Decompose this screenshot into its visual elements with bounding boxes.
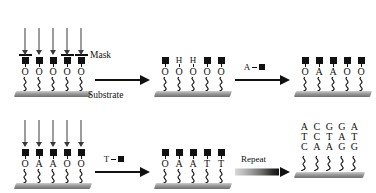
panel-4-protecting-group-3 [50, 149, 57, 156]
panel-6-base-r3c3: A [323, 142, 336, 152]
linker-squiggle-icon [341, 77, 353, 92]
bond-dash-icon [252, 67, 257, 68]
synthesis-cycle-diagram: OOOOOOHOHOOOOAAOOOAAOOOAATTATRepeatMaskS… [0, 0, 376, 193]
panel-1-light-arrow-2 [33, 28, 45, 54]
arrow-head-icon [280, 167, 290, 177]
panel-3-mask-bar-2 [313, 54, 326, 56]
panel-1-protecting-group-1 [22, 57, 29, 64]
panel-5-protecting-group-5 [218, 149, 225, 156]
panel-4-column-4: O [60, 120, 74, 184]
panel-2-column-4: O [200, 28, 214, 92]
panel-6-base-r3c5: G [348, 142, 361, 152]
panel-5-column-2: A [172, 120, 186, 184]
panel-1-column-4: O [60, 28, 74, 92]
panel-4-base-3: A [49, 159, 56, 169]
substrate-label: Substrate [88, 90, 123, 100]
arrow-2-reagent: A [244, 62, 266, 72]
panel-1-light-arrow-3 [47, 28, 59, 54]
arrow-2-reagent-letter: A [244, 62, 251, 72]
arrow-3-label: T [104, 154, 125, 164]
down-arrow-icon [50, 142, 56, 147]
panel-3-base-2: A [315, 67, 322, 77]
arrow-3-reagent: T [104, 154, 125, 164]
panel-2-hydrogen-cap-2: H [176, 57, 183, 64]
panel-2-column-1: O [158, 28, 172, 92]
down-arrow-icon [64, 142, 70, 147]
panel-4-column-3: A [46, 120, 60, 184]
arrow-shaft [95, 171, 141, 173]
panel-6-base-r3c2: A [311, 142, 324, 152]
panel-3-mask-bar-4 [341, 54, 354, 56]
panel-1-light-arrow-4 [61, 28, 73, 54]
panel-6-linker-column-4 [336, 156, 349, 171]
panel-2-light-arrow-1 [159, 28, 171, 54]
panel-2-protecting-group-5 [218, 57, 225, 64]
linker-squiggle-icon [47, 77, 59, 92]
linker-squiggle-icon [348, 156, 360, 171]
panel-3-base-5: O [357, 67, 364, 77]
panel-5-base-4: T [204, 159, 210, 169]
panel-5-protecting-group-1 [162, 149, 169, 156]
arrow-head-icon [140, 167, 150, 177]
panel-5-base-5: T [218, 159, 224, 169]
panel-5-light-arrow-4 [201, 120, 213, 146]
panel-1-column-3: O [46, 28, 60, 92]
panel-3-column-2: A [312, 28, 326, 92]
panel-5-substrate [154, 183, 232, 189]
panel-2-substrate [154, 91, 232, 97]
panel-1-column-1: O [18, 28, 32, 92]
panel-5-light-arrow-5 [215, 120, 227, 146]
panel-5-light-arrow-3 [187, 120, 199, 146]
panel-1-substrate [14, 91, 92, 97]
arrow-3 [95, 166, 150, 178]
panel-4-protecting-group-4 [64, 149, 71, 156]
panel-1-protecting-group-2 [36, 57, 43, 64]
panel-2-light-arrow-3 [187, 28, 199, 54]
panel-4-base-2: A [35, 159, 42, 169]
panel-4-column-1: O [18, 120, 32, 184]
linker-squiggle-icon [47, 169, 59, 184]
panel-1-base-1: O [21, 67, 28, 77]
panel-5-columns: OAATT [158, 120, 228, 184]
panel-2-light-arrow-2 [173, 28, 185, 54]
panel-2-mask-bar-5 [215, 54, 228, 56]
linker-squiggle-icon [298, 156, 310, 171]
linker-squiggle-icon [61, 77, 73, 92]
panel-2-hydrogen-cap-3: H [190, 57, 197, 64]
arrow-1 [95, 74, 150, 86]
linker-squiggle-icon [19, 77, 31, 92]
panel-3-column-1: O [298, 28, 312, 92]
panel-4-protecting-group-5 [78, 149, 85, 156]
arrow-3-reagent-protecting-group [118, 156, 124, 162]
panel-2-mask-bar-4 [201, 54, 214, 56]
panel-4-light-arrow-3 [47, 120, 59, 146]
panel-1-protecting-group-4 [64, 57, 71, 64]
panel-2-light-arrow-4 [201, 28, 213, 54]
panel-5-mask-bar-2 [173, 146, 186, 148]
panel-5-base-1: O [161, 159, 168, 169]
panel-5-column-1: O [158, 120, 172, 184]
panel-6-base-r3c4: G [336, 142, 349, 152]
linker-squiggle-icon [173, 77, 185, 92]
bond-dash-icon [111, 159, 116, 160]
panel-5-base-2: A [175, 159, 182, 169]
panel-2-base-3: O [189, 67, 196, 77]
panel-4-base-1: O [21, 159, 28, 169]
panel-2-light-arrow-5 [215, 28, 227, 54]
panel-3-protecting-group-5 [358, 57, 365, 64]
panel-2-base-1: O [161, 67, 168, 77]
panel-3-protecting-group-3 [330, 57, 337, 64]
down-arrow-icon [50, 50, 56, 55]
panel-2-columns: OHOHOOO [158, 28, 228, 92]
panel-2-base-2: O [175, 67, 182, 77]
panel-3-mask-bar-1 [299, 54, 312, 56]
panel-4-base-4: O [63, 159, 70, 169]
linker-squiggle-icon [215, 169, 227, 184]
panel-1-light-arrow-5 [75, 28, 87, 54]
down-arrow-icon [64, 50, 70, 55]
panel-4-light-arrow-1 [19, 120, 31, 146]
panel-1-base-4: O [63, 67, 70, 77]
arrow-2-label: A [244, 62, 266, 72]
panel-3-protecting-group-1 [302, 57, 309, 64]
panel-5-mask-bar-1 [159, 146, 172, 148]
